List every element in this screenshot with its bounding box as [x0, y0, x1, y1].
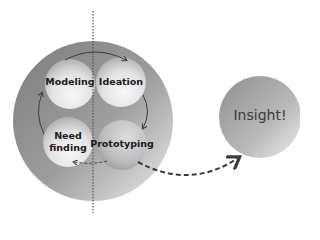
stage-label-ideation: Ideation	[99, 76, 143, 88]
stage-label-prototyping: Prototyping	[90, 138, 154, 150]
insight-label: Insight!	[233, 107, 286, 123]
stage-label-needfinding: Need finding	[49, 130, 86, 154]
stage-label-modeling: Modeling	[45, 76, 94, 88]
